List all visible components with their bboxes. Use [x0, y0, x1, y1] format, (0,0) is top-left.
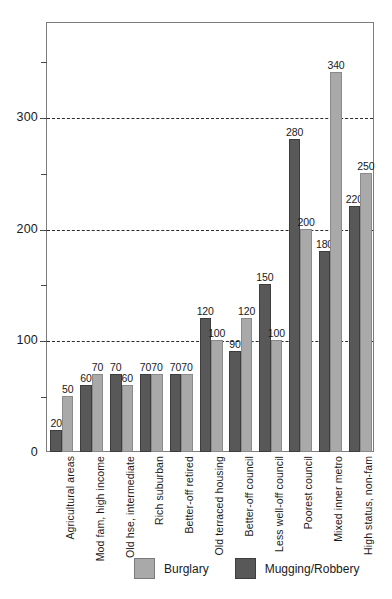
chart-legend: BurglaryMugging/Robbery	[134, 558, 359, 579]
legend-label: Mugging/Robbery	[265, 563, 360, 575]
bar	[140, 374, 152, 452]
bar	[110, 374, 122, 452]
bar	[62, 396, 74, 452]
x-axis-labels: Agricultural areasMod fam, high incomeOl…	[46, 456, 374, 556]
y-axis-label-100: 100	[17, 334, 38, 346]
y-axis-label-300: 300	[17, 111, 38, 123]
bar	[319, 251, 331, 452]
bar	[211, 340, 223, 452]
bar	[300, 229, 312, 452]
legend-item[interactable]: Mugging/Robbery	[235, 558, 360, 579]
bar	[349, 206, 361, 452]
x-axis-category-label: Better-off council	[244, 456, 255, 536]
bar	[241, 318, 253, 452]
bar-value-label: 50	[57, 384, 79, 394]
x-axis-category-label: Mod fam, high income	[95, 456, 106, 561]
bars-layer: 2050607070607070707012010090120150100280…	[46, 22, 374, 452]
x-axis-category-label: Agricultural areas	[65, 456, 76, 540]
y-axis-label-200: 200	[17, 223, 38, 235]
bar-value-label: 340	[325, 60, 347, 70]
bar	[259, 284, 271, 452]
bar-value-label: 70	[105, 362, 127, 372]
bar-value-label: 150	[254, 272, 276, 282]
bar-value-label: 200	[295, 217, 317, 227]
bar-value-label: 70	[176, 362, 198, 372]
x-axis-category-label: Old terraced housing	[214, 456, 225, 555]
y-axis-label-0: 0	[31, 446, 38, 458]
bar	[122, 385, 134, 452]
bar	[229, 351, 241, 452]
legend-label: Burglary	[164, 563, 209, 575]
bar	[181, 374, 193, 452]
bar	[50, 430, 62, 452]
bar	[92, 374, 104, 452]
bar	[170, 374, 182, 452]
legend-swatch-light	[134, 558, 155, 579]
bar-value-label: 100	[206, 328, 228, 338]
bar-chart: 0100200300 20506070706070707070120100901…	[0, 0, 392, 599]
legend-item[interactable]: Burglary	[134, 558, 209, 579]
x-axis-category-label: Old hse, intermediate	[125, 456, 136, 558]
bar-value-label: 100	[266, 328, 288, 338]
bar	[80, 385, 92, 452]
bar	[271, 340, 283, 452]
x-axis-category-label: Poorest council	[303, 456, 314, 529]
bar	[330, 72, 342, 452]
bar	[151, 374, 163, 452]
bar	[289, 139, 301, 452]
bar-value-label: 280	[284, 127, 306, 137]
bar	[360, 173, 372, 452]
x-axis-category-label: Rich suburban	[154, 456, 165, 525]
x-axis-category-label: Mixed inner metro	[333, 456, 344, 542]
x-axis-category-label: Better-off retired	[184, 456, 195, 533]
legend-swatch-dark	[235, 558, 256, 579]
x-axis-category-label: High status, non-fam	[363, 456, 374, 555]
bar-value-label: 120	[236, 306, 258, 316]
bar-value-label: 250	[355, 161, 377, 171]
x-axis-category-label: Less well-off council	[274, 456, 285, 552]
bar-value-label: 120	[195, 306, 217, 316]
bar-value-label: 60	[117, 373, 139, 383]
